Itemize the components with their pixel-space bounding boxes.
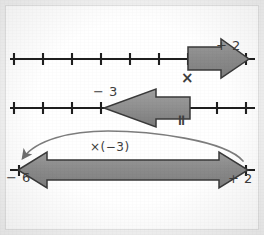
vector-arrow-result-minus-six [18, 152, 248, 188]
operator-equals: = [174, 114, 189, 127]
label-curve-caption: ×(−3) [90, 141, 130, 153]
figure-root: + 2 × − 3 = ×(−3) − 6 + 2 [0, 0, 264, 235]
label-plus-two-top: + 2 [216, 39, 241, 52]
label-minus-six: − 6 [6, 171, 31, 184]
label-minus-three: − 3 [93, 85, 118, 98]
operator-multiply: × [181, 71, 194, 86]
result-number-line [10, 152, 255, 188]
label-plus-two-bottom: + 2 [228, 172, 253, 185]
number-line-diagram [0, 0, 264, 235]
second-number-line [10, 89, 255, 127]
multiply-curve-arrow [23, 131, 243, 161]
